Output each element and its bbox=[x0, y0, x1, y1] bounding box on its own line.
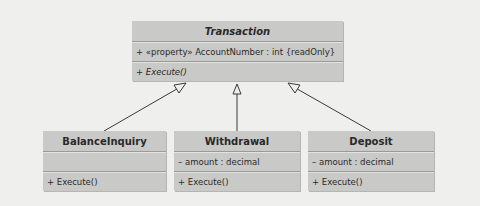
class-name: Withdrawal bbox=[174, 131, 300, 152]
triangle-arrowhead-icon bbox=[174, 83, 186, 93]
class-withdrawal[interactable]: Withdrawal – amount : decimal + Execute(… bbox=[174, 131, 300, 191]
class-operation: + Execute() bbox=[308, 172, 434, 191]
class-name: Transaction bbox=[132, 21, 343, 42]
class-attribute: – amount : decimal bbox=[308, 152, 434, 172]
class-transaction[interactable]: Transaction + «property» AccountNumber :… bbox=[132, 21, 343, 81]
class-attribute: – amount : decimal bbox=[174, 152, 300, 172]
edge-balanceinquiry-transaction bbox=[104, 86, 182, 131]
class-operation: + Execute() bbox=[174, 172, 300, 191]
triangle-arrowhead-icon bbox=[233, 84, 241, 94]
class-operation: + Execute() bbox=[43, 172, 166, 191]
triangle-arrowhead-icon bbox=[288, 83, 300, 93]
class-operation: + Execute() bbox=[132, 62, 343, 81]
class-name: BalanceInquiry bbox=[43, 131, 166, 152]
class-balanceinquiry[interactable]: BalanceInquiry + Execute() bbox=[43, 131, 166, 191]
class-name: Deposit bbox=[308, 131, 434, 152]
class-deposit[interactable]: Deposit – amount : decimal + Execute() bbox=[308, 131, 434, 191]
class-attribute: + «property» AccountNumber : int {readOn… bbox=[132, 42, 343, 62]
class-attribute bbox=[43, 152, 166, 172]
edge-deposit-transaction bbox=[292, 86, 371, 131]
